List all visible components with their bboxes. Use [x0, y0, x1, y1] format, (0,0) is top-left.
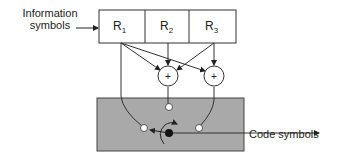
input-label-line-2: symbols — [18, 19, 82, 31]
input-label: Information symbols — [18, 7, 82, 31]
encoder-diagram: + + Information symbols R1 R2 R3 Code sy… — [0, 0, 341, 155]
contact-left — [141, 125, 148, 132]
contact-middle — [166, 104, 173, 111]
register-cell-r1: R1 — [113, 19, 126, 35]
input-label-line-1: Information — [18, 7, 82, 19]
adder-1-symbol: + — [165, 71, 171, 82]
register-cell-r2: R2 — [160, 19, 173, 35]
adder-2-symbol: + — [211, 71, 217, 82]
contact-right — [196, 125, 203, 132]
output-label: Code symbols — [249, 128, 319, 140]
register-cell-r3: R3 — [205, 19, 218, 35]
